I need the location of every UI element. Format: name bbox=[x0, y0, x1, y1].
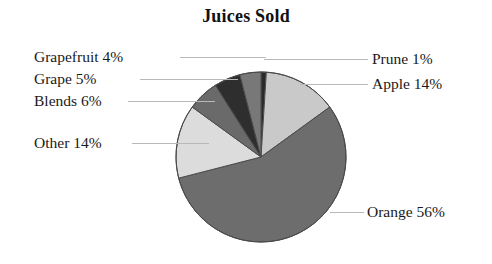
leader-line-orange bbox=[330, 212, 364, 213]
slice-label-prune: Prune 1% bbox=[372, 51, 433, 67]
leader-line-other bbox=[132, 143, 209, 144]
pie-chart-figure: Juices Sold Grapefruit 4% Grape 5% Blend… bbox=[0, 0, 492, 264]
slice-label-apple: Apple 14% bbox=[372, 76, 442, 92]
pie-chart-graphic bbox=[0, 0, 492, 264]
leader-line-grapefruit bbox=[180, 57, 266, 58]
leader-line-prune bbox=[264, 59, 368, 60]
pie-slices bbox=[176, 72, 346, 242]
leader-line-apple bbox=[300, 84, 368, 85]
slice-label-other: Other 14% bbox=[34, 135, 102, 151]
slice-label-grapefruit: Grapefruit 4% bbox=[34, 49, 123, 65]
slice-label-grape: Grape 5% bbox=[34, 71, 96, 87]
slice-label-blends: Blends 6% bbox=[34, 93, 102, 109]
slice-label-orange: Orange 56% bbox=[367, 204, 445, 220]
leader-line-blends bbox=[128, 101, 215, 102]
leader-line-grape bbox=[140, 79, 238, 80]
